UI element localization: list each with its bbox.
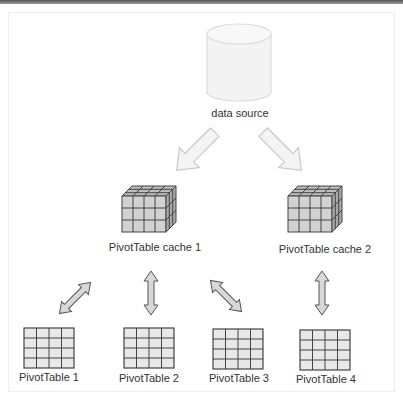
cube-grid-icon [122,186,176,232]
table-grid-icon [124,328,174,368]
cache-2-label: PivotTable cache 2 [279,243,371,255]
pivottable-4-label: PivotTable 4 [296,373,356,385]
arrow-cache1-to-table2 [144,271,158,315]
arrow-cache2-to-table4 [315,271,329,315]
database-cylinder-icon [207,24,271,101]
diagram-canvas [0,0,403,403]
arrow-source-to-cache-2 [253,122,311,180]
cache-1-label: PivotTable cache 1 [109,241,201,253]
table-grid-icon [300,330,350,370]
pivottable-1-label: PivotTable 1 [19,371,79,383]
arrow-cache1-to-table1 [54,277,95,318]
pivottable-3-label: PivotTable 3 [209,372,269,384]
data-source-label: data source [211,107,268,119]
pivottable-2-label: PivotTable 2 [119,372,179,384]
arrow-source-to-cache-1 [167,122,225,180]
table-grid-icon [213,329,263,369]
table-grid-icon [24,328,74,368]
cube-grid-icon [288,186,342,232]
arrow-cache1-to-table3 [205,275,246,316]
